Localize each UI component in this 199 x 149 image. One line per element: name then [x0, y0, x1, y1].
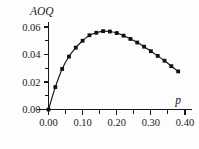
y-tick-label: 0.06 — [22, 22, 40, 33]
y-axis: 0.000.020.040.06 — [22, 22, 48, 116]
x-tick-label: 0.30 — [142, 117, 160, 128]
data-point-marker — [115, 31, 119, 35]
x-tick-label: 0.00 — [39, 117, 57, 128]
data-point-marker — [149, 49, 153, 53]
data-point-marker — [176, 70, 180, 74]
data-point-marker — [81, 39, 85, 43]
y-tick-label: 0.02 — [22, 77, 40, 88]
aoq-chart: AOQ p 0.000.020.040.06 0.000.100.200.300… — [0, 0, 199, 149]
aoq-curve — [49, 31, 179, 109]
x-tick-label: 0.40 — [176, 117, 194, 128]
data-point-marker — [156, 54, 160, 58]
data-point-marker — [67, 55, 71, 59]
x-axis: 0.000.100.200.300.40 — [37, 110, 194, 128]
x-tick-label: 0.20 — [108, 117, 126, 128]
x-axis-ticks — [49, 110, 186, 115]
x-axis-tick-labels: 0.000.100.200.300.40 — [39, 117, 194, 128]
y-axis-title: AOQ — [29, 5, 54, 17]
y-axis-tick-labels: 0.000.020.040.06 — [22, 22, 41, 116]
data-point-marker — [74, 46, 78, 50]
data-point-marker — [60, 67, 64, 71]
data-point-marker — [129, 37, 133, 41]
data-point-marker — [94, 31, 98, 35]
x-tick-label: 0.10 — [73, 117, 91, 128]
y-axis-ticks — [44, 27, 49, 110]
data-point-marker — [122, 34, 126, 38]
data-point-marker — [88, 33, 92, 37]
aoq-data-markers — [47, 29, 180, 111]
y-tick-label: 0.04 — [22, 49, 41, 60]
data-point-marker — [101, 29, 105, 33]
data-series-aoq — [47, 29, 180, 111]
data-point-marker — [163, 59, 167, 63]
chart-canvas: AOQ p 0.000.020.040.06 0.000.100.200.300… — [0, 0, 199, 149]
x-axis-title: p — [174, 94, 181, 107]
data-point-marker — [47, 108, 51, 112]
data-point-marker — [142, 45, 146, 49]
data-point-marker — [135, 41, 139, 45]
data-point-marker — [169, 64, 173, 68]
data-point-marker — [108, 30, 112, 34]
data-point-marker — [53, 85, 57, 89]
